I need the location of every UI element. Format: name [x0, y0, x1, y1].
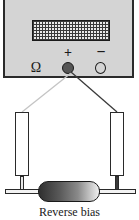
left-probe-tip	[20, 176, 24, 190]
lead-to-right-probe	[71, 72, 117, 112]
left-probe	[15, 112, 29, 176]
right-probe-tip	[115, 176, 119, 190]
lead-to-left-probe	[22, 73, 71, 112]
right-probe	[110, 112, 124, 176]
diagram-caption: Reverse bias	[0, 205, 139, 220]
diode-body	[38, 181, 100, 202]
